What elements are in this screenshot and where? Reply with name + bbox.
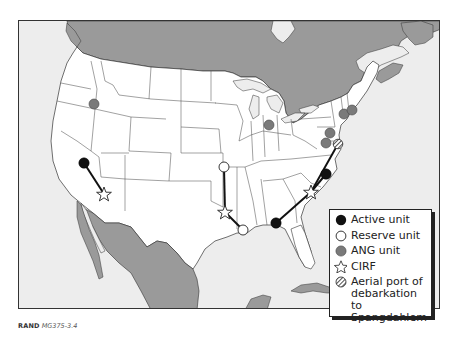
legend-label: CIRF — [351, 261, 376, 273]
reserve-unit-marker — [238, 225, 248, 235]
legend-item-active-unit: Active unit — [334, 214, 428, 230]
caption-org: RAND — [18, 322, 40, 330]
ang-unit-marker — [264, 120, 274, 130]
active-unit-marker — [271, 218, 281, 228]
figure-caption: RANDMG375-3.4 — [18, 322, 77, 330]
aerial-port-marker — [333, 139, 343, 149]
ang-unit-marker — [89, 99, 99, 109]
open-circle-icon — [334, 230, 347, 242]
star-icon — [334, 261, 347, 273]
active-unit-marker — [321, 169, 331, 179]
legend-label: ANG unit — [351, 245, 400, 257]
map-legend: Active unit Reserve unit ANG unit CIRF — [329, 209, 432, 317]
legend-item-cirf: CIRF — [334, 261, 428, 277]
legend-label: Active unit — [351, 214, 410, 226]
reserve-unit-marker — [219, 162, 229, 172]
hatched-circle-icon — [334, 276, 347, 288]
active-unit-marker — [79, 158, 89, 168]
ang-unit-marker — [347, 105, 357, 115]
legend-item-aerial-port: Aerial port of debarkation to Spangdahle… — [334, 276, 428, 324]
filled-black-circle-icon — [334, 214, 347, 226]
legend-item-reserve-unit: Reserve unit — [334, 230, 428, 246]
legend-item-ang-unit: ANG unit — [334, 245, 428, 261]
legend-label: Aerial port of debarkation to Spangdahle… — [351, 276, 428, 324]
legend-label: Reserve unit — [351, 230, 420, 242]
ang-unit-marker — [325, 128, 335, 138]
ang-unit-marker — [321, 138, 331, 148]
filled-gray-circle-icon — [334, 245, 347, 257]
caption-figure-id: MG375-3.4 — [42, 322, 78, 330]
